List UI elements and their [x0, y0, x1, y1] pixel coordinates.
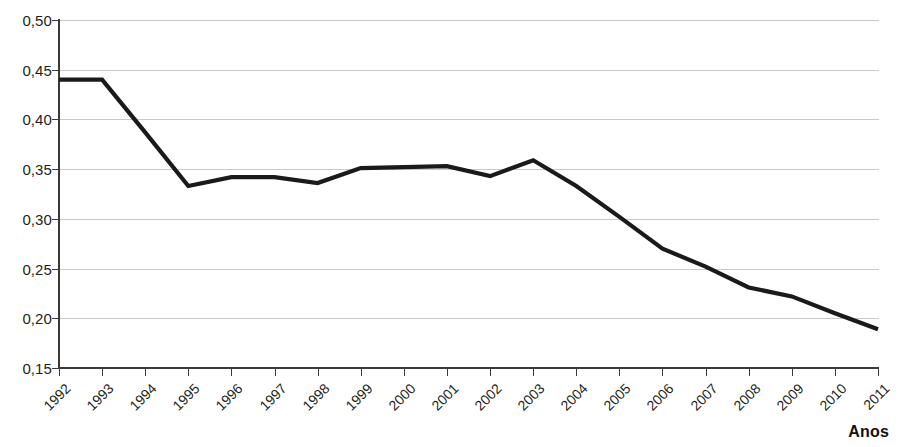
y-tick-label-5: 0,25: [6, 262, 52, 277]
x-tick-marks-group: [60, 368, 879, 376]
y-tick-label-0: 0,50: [6, 13, 52, 28]
line-chart-figure: 0,500,450,400,350,300,250,200,15 1992199…: [0, 0, 903, 447]
y-axis-tick-labels: 0,500,450,400,350,300,250,200,15: [0, 0, 52, 447]
chart-plot-canvas: [0, 0, 903, 447]
y-tick-label-2: 0,40: [6, 112, 52, 127]
gridlines-group: [59, 21, 879, 369]
y-tick-label-7: 0,15: [6, 361, 52, 376]
y-tick-label-4: 0,30: [6, 212, 52, 227]
y-tick-label-6: 0,20: [6, 311, 52, 326]
data-series-line: [59, 80, 878, 330]
y-tick-label-3: 0,35: [6, 162, 52, 177]
y-tick-label-1: 0,45: [6, 63, 52, 78]
x-axis-title: Anos: [848, 423, 889, 441]
